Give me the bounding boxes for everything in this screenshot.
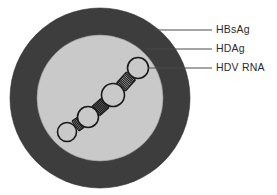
label-hdag: HDAg (216, 42, 245, 54)
hdv-virion-diagram: HBsAg HDAg HDV RNA (0, 0, 277, 195)
label-hbsag: HBsAg (216, 23, 250, 35)
rna-loop-1 (78, 107, 99, 128)
label-hdv-rna: HDV RNA (216, 61, 265, 73)
rna-loop-2 (102, 84, 125, 107)
figure-root: HBsAg HDAg HDV RNA (0, 0, 277, 195)
hdag-core-circle (37, 35, 163, 161)
rna-loop-3 (128, 58, 149, 79)
rna-loop-0 (58, 123, 77, 142)
